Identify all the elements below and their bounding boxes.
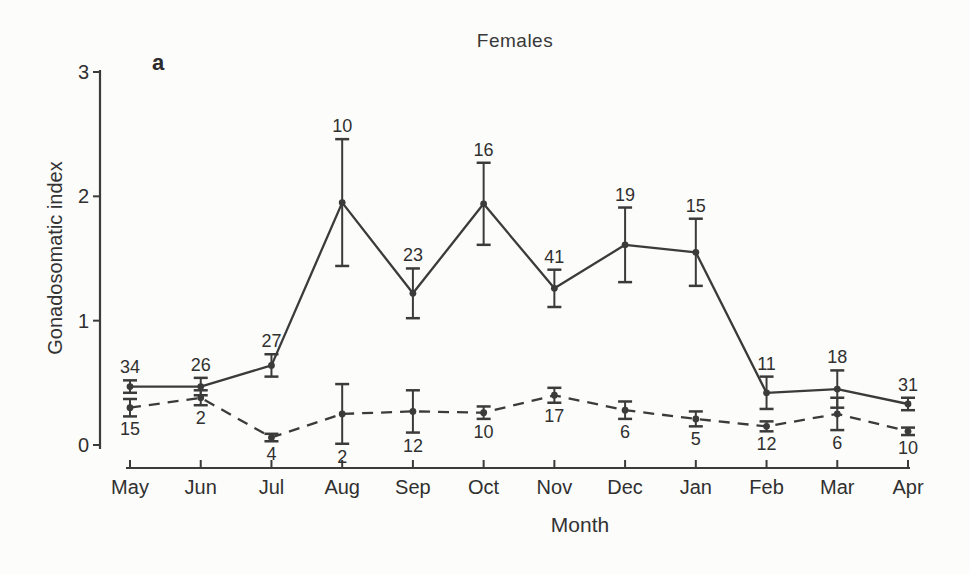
sample-size-label: 10	[332, 116, 352, 136]
sample-size-label: 2	[337, 447, 347, 467]
data-point	[834, 386, 841, 393]
y-tick-label: 2	[78, 185, 89, 207]
data-point	[197, 383, 204, 390]
sample-size-label: 2	[196, 408, 206, 428]
sample-size-label: 26	[191, 355, 211, 375]
x-tick-label: Jun	[185, 476, 217, 498]
data-point	[622, 407, 629, 414]
series-line-dashed	[130, 395, 908, 437]
line-chart: 0123MayJunJulAugSepOctNovDecJanFebMarApr…	[0, 0, 970, 574]
data-point	[763, 423, 770, 430]
sample-size-label: 5	[691, 429, 701, 449]
x-tick-label: Mar	[820, 476, 855, 498]
sample-size-label: 27	[261, 331, 281, 351]
data-point	[622, 241, 629, 248]
data-point	[551, 285, 558, 292]
data-point	[268, 362, 275, 369]
sample-size-label: 15	[120, 419, 140, 439]
y-tick-label: 1	[78, 310, 89, 332]
data-point	[905, 401, 912, 408]
sample-size-label: 15	[686, 196, 706, 216]
x-tick-label: Aug	[324, 476, 360, 498]
data-point	[692, 249, 699, 256]
sample-size-label: 34	[120, 357, 140, 377]
y-tick-label: 0	[78, 434, 89, 456]
sample-size-label: 16	[474, 140, 494, 160]
sample-size-label: 6	[620, 422, 630, 442]
x-tick-label: May	[111, 476, 149, 498]
data-point	[480, 409, 487, 416]
data-point	[410, 290, 417, 297]
data-point	[480, 200, 487, 207]
sample-size-label: 23	[403, 245, 423, 265]
sample-size-label: 19	[615, 185, 635, 205]
data-point	[339, 411, 346, 418]
sample-size-label: 12	[757, 434, 777, 454]
data-point	[551, 392, 558, 399]
data-point	[692, 415, 699, 422]
sample-size-label: 10	[474, 422, 494, 442]
data-point	[339, 199, 346, 206]
sample-size-label: 6	[832, 433, 842, 453]
sample-size-label: 11	[757, 354, 776, 374]
x-tick-label: Sep	[395, 476, 431, 498]
x-tick-label: Dec	[607, 476, 643, 498]
data-point	[905, 428, 912, 435]
data-point	[763, 389, 770, 396]
sample-size-label: 18	[827, 347, 847, 367]
x-tick-label: Apr	[892, 476, 923, 498]
sample-size-label: 31	[898, 375, 918, 395]
data-point	[834, 411, 841, 418]
series-line-solid	[130, 203, 908, 404]
data-point	[410, 408, 417, 415]
sample-size-label: 12	[403, 436, 423, 456]
figure-panel: Females a Gonadosomatic index Month 0123…	[0, 0, 970, 574]
y-tick-label: 3	[78, 61, 89, 83]
x-tick-label: Oct	[468, 476, 500, 498]
data-point	[197, 394, 204, 401]
sample-size-label: 10	[898, 438, 918, 458]
x-tick-label: Jan	[680, 476, 712, 498]
x-tick-label: Feb	[749, 476, 783, 498]
sample-size-label: 4	[266, 444, 276, 464]
data-point	[268, 434, 275, 441]
data-point	[127, 404, 134, 411]
sample-size-label: 41	[544, 247, 564, 267]
data-point	[127, 383, 134, 390]
x-tick-label: Jul	[259, 476, 285, 498]
sample-size-label: 17	[544, 406, 564, 426]
x-tick-label: Nov	[537, 476, 573, 498]
